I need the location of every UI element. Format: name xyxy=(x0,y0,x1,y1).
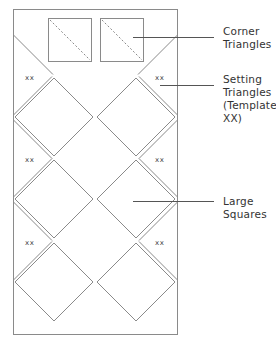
large-square-left-3 xyxy=(15,243,93,321)
setting-edge xyxy=(14,159,53,198)
block-marker: xx xyxy=(25,74,34,82)
setting-edge xyxy=(139,120,178,159)
callout-corner-triangles: Corner Triangles xyxy=(223,25,272,51)
setting-edge xyxy=(139,159,178,198)
block-marker: xx xyxy=(155,74,164,82)
block-marker: xx xyxy=(25,156,34,164)
corner-square-left-diagonal xyxy=(50,20,90,60)
setting-edge xyxy=(14,202,53,241)
block-marker: xx xyxy=(25,239,34,247)
large-square-right-2 xyxy=(97,160,175,238)
setting-edge xyxy=(139,77,178,116)
large-square-right-1 xyxy=(97,78,175,156)
large-square-left-1 xyxy=(15,78,93,156)
block-marker: xx xyxy=(155,156,164,164)
setting-edge xyxy=(139,202,178,241)
callout-setting-triangles: Setting Triangles (Template XX) xyxy=(223,73,276,125)
block-marker: xx xyxy=(155,239,164,247)
large-square-left-2 xyxy=(15,160,93,238)
setting-edge xyxy=(14,120,53,159)
top-setting-edge-left xyxy=(14,35,54,75)
callout-large-squares: Large Squares xyxy=(223,195,267,221)
setting-edge xyxy=(14,77,53,116)
quilt-diagram xyxy=(0,0,276,348)
setting-edge xyxy=(139,242,178,281)
corner-square-right-diagonal xyxy=(102,20,142,60)
setting-edge xyxy=(14,242,53,281)
large-square-right-3 xyxy=(97,243,175,321)
